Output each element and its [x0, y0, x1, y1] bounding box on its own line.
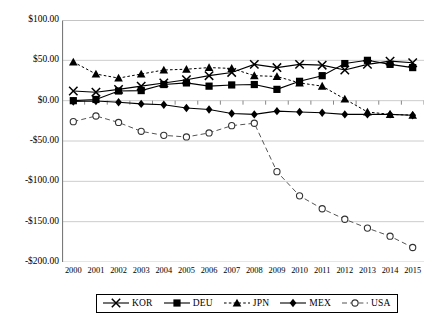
legend-item-deu: DEU — [164, 297, 213, 309]
square-marker — [386, 61, 393, 68]
diamond-marker — [160, 101, 167, 109]
triangle-marker — [341, 95, 350, 103]
y-axis-tick-label: $0.00 — [38, 96, 59, 106]
diamond-marker — [290, 299, 297, 307]
triangle-marker — [318, 82, 327, 90]
series-line — [73, 60, 412, 100]
circle-open-marker — [229, 123, 235, 129]
circle-open-marker — [274, 169, 280, 175]
x-axis-tick-label: 2008 — [246, 266, 263, 276]
x-axis-labels: 2000200120022003200420052006200720082009… — [62, 266, 424, 280]
legend-label: MEX — [309, 298, 331, 308]
x-axis-tick-label: 2000 — [65, 266, 82, 276]
y-axis-tick-label: $50.00 — [33, 55, 59, 65]
triangle-marker — [224, 297, 250, 309]
circle-open-marker — [364, 225, 370, 231]
x-axis-tick-label: 2011 — [314, 266, 330, 276]
square-marker — [341, 60, 348, 67]
chart-page: $100.00$50.00$0.00-$50.00-$100.00-$150.0… — [0, 0, 439, 333]
triangle-marker — [69, 58, 78, 66]
square-marker — [409, 64, 416, 71]
circle-open-marker — [183, 134, 189, 140]
square-marker — [183, 79, 190, 86]
legend-label: USA — [371, 298, 391, 308]
series-mex — [70, 97, 416, 120]
y-axis-tick-label: $100.00 — [28, 15, 59, 25]
triangle-marker — [205, 63, 214, 71]
diamond-marker — [206, 105, 213, 113]
circle-open-marker — [319, 206, 325, 212]
circle-open-marker — [138, 128, 144, 134]
circle-open-marker — [115, 119, 121, 125]
legend-item-jpn: JPN — [224, 297, 269, 309]
y-axis-tick-label: -$50.00 — [30, 136, 59, 146]
x-axis-tick-label: 2012 — [336, 266, 353, 276]
y-axis-tick-label: -$100.00 — [25, 176, 59, 186]
legend-label: KOR — [132, 298, 153, 308]
square-marker — [164, 297, 190, 309]
square-marker — [115, 87, 122, 94]
diamond-marker — [183, 104, 190, 112]
y-axis-tick-label: -$200.00 — [25, 257, 59, 267]
square-marker — [138, 87, 145, 94]
x-axis-tick-label: 2014 — [382, 266, 399, 276]
legend-item-usa: USA — [342, 297, 391, 309]
square-marker — [205, 83, 212, 90]
circle-open-marker — [342, 216, 348, 222]
circle-open-marker — [70, 119, 76, 125]
triangle-marker — [92, 70, 101, 78]
circle-open-marker — [93, 113, 99, 119]
x-axis-tick-label: 2001 — [88, 266, 105, 276]
series-line — [73, 116, 412, 247]
diamond-marker — [115, 98, 122, 106]
x-marker — [103, 297, 129, 309]
circle-open-marker — [387, 233, 393, 239]
triangle-marker — [273, 72, 282, 80]
legend-item-mex: MEX — [280, 297, 331, 309]
x-axis-tick-label: 2006 — [201, 266, 218, 276]
diamond-marker — [274, 107, 281, 115]
square-marker — [251, 81, 258, 88]
chart-legend: KORDEUJPNMEXUSA — [96, 294, 398, 313]
x-axis-tick-label: 2007 — [223, 266, 240, 276]
series-usa — [70, 113, 416, 251]
x-axis-tick-label: 2009 — [269, 266, 286, 276]
plot-area — [62, 20, 424, 262]
circle-open-marker — [342, 297, 368, 309]
diamond-marker — [251, 110, 258, 118]
diamond-marker — [280, 297, 306, 309]
diamond-marker — [341, 110, 348, 118]
diamond-marker — [296, 108, 303, 116]
y-axis-labels: $100.00$50.00$0.00-$50.00-$100.00-$150.0… — [0, 0, 59, 280]
circle-open-marker — [251, 120, 257, 126]
square-marker — [173, 299, 180, 306]
x-axis-tick-label: 2013 — [359, 266, 376, 276]
diamond-marker — [228, 109, 235, 117]
circle-open-marker — [206, 130, 212, 136]
x-axis-tick-label: 2010 — [291, 266, 308, 276]
x-axis-tick-label: 2004 — [155, 266, 172, 276]
circle-open-marker — [161, 132, 167, 138]
circle-open-marker — [410, 244, 416, 250]
diamond-marker — [319, 109, 326, 117]
square-marker — [228, 81, 235, 88]
x-axis-tick-label: 2005 — [178, 266, 195, 276]
circle-open-marker — [352, 300, 358, 306]
x-axis-tick-label: 2003 — [133, 266, 150, 276]
legend-label: DEU — [193, 298, 213, 308]
legend-item-kor: KOR — [103, 297, 153, 309]
line-chart-svg — [62, 20, 424, 262]
square-marker — [273, 86, 280, 93]
legend-label: JPN — [253, 298, 269, 308]
x-axis-tick-label: 2002 — [110, 266, 127, 276]
square-marker — [319, 72, 326, 79]
triangle-marker — [137, 70, 146, 78]
square-marker — [364, 57, 371, 64]
diamond-marker — [364, 110, 371, 118]
circle-open-marker — [296, 193, 302, 199]
x-axis-tick-label: 2015 — [404, 266, 421, 276]
square-marker — [160, 81, 167, 88]
y-axis-tick-label: -$150.00 — [25, 217, 59, 227]
